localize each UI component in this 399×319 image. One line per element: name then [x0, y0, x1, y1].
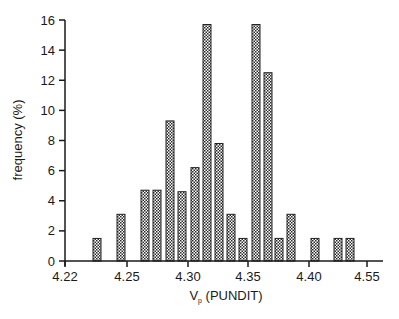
histogram-bar	[215, 144, 223, 261]
y-tick-label: 16	[41, 13, 55, 28]
histogram-bar	[141, 190, 149, 261]
histogram-bar	[153, 190, 161, 261]
x-tick-label: 4.40	[296, 269, 321, 284]
x-tick-label: 4.55	[354, 269, 379, 284]
histogram-bar	[334, 238, 342, 261]
histogram-bar	[275, 238, 283, 261]
y-tick-label: 14	[41, 43, 55, 58]
histogram-bar	[227, 214, 235, 261]
y-tick-label: 10	[41, 103, 55, 118]
x-axis: 4.224.254.304.354.404.55	[52, 261, 383, 284]
histogram-bar	[311, 238, 319, 261]
histogram-bar	[191, 168, 199, 261]
x-tick-label: 4.30	[175, 269, 200, 284]
histogram-bar	[239, 238, 247, 261]
histogram-bar	[178, 192, 186, 261]
y-tick-label: 6	[48, 163, 55, 178]
histogram-bar	[287, 214, 295, 261]
histogram-bar	[252, 25, 260, 261]
x-tick-label: 4.35	[235, 269, 260, 284]
histogram-bar	[203, 25, 211, 261]
x-axis-title: Vp (PUNDIT)	[189, 288, 262, 305]
histogram-bar	[346, 238, 354, 261]
y-tick-label: 8	[48, 133, 55, 148]
y-axis: 0246810121416	[41, 13, 65, 269]
y-axis-title: frequency (%)	[10, 100, 25, 181]
y-tick-label: 4	[48, 193, 55, 208]
y-tick-label: 0	[48, 254, 55, 269]
bars-group	[93, 25, 354, 261]
histogram-bar	[117, 214, 125, 261]
y-tick-label: 12	[41, 73, 55, 88]
y-tick-label: 2	[48, 223, 55, 238]
histogram-chart: 0246810121416 4.224.254.304.354.404.55 f…	[0, 0, 399, 319]
x-tick-label: 4.25	[114, 269, 139, 284]
histogram-bar	[93, 238, 101, 261]
histogram-bar	[166, 121, 174, 261]
x-tick-label: 4.22	[52, 269, 77, 284]
histogram-bar	[264, 73, 272, 261]
